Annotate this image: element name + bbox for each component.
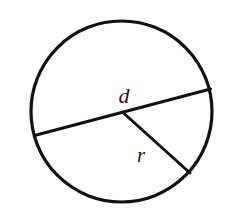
- radius-label: r: [137, 143, 146, 167]
- diameter-label: d: [119, 83, 131, 108]
- figure-container: d r: [0, 0, 230, 211]
- figure-background: [0, 0, 230, 211]
- circle-diagram: d r: [0, 0, 230, 211]
